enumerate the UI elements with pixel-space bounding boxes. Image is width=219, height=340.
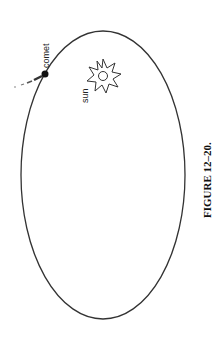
comet-orbit-diagram: sun comet FIGURE 12–20. [0,0,219,340]
comet-label: comet [41,43,51,68]
comet-icon [14,71,48,88]
sun-icon [87,59,121,93]
figure-caption: FIGURE 12–20. [201,142,213,218]
sun-label: sun [80,88,90,103]
